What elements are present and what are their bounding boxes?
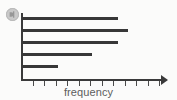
chart-screenshot: frequency [0, 0, 177, 100]
x-axis-line [21, 79, 163, 81]
x-axis-arrowhead-icon [161, 75, 168, 85]
bar [22, 53, 92, 56]
plot-area: frequency [0, 0, 177, 100]
y-axis-line [21, 13, 23, 81]
bar [22, 29, 128, 32]
bar [22, 17, 118, 20]
bar [22, 65, 58, 68]
x-axis-label: frequency [0, 86, 177, 98]
bar [22, 41, 118, 44]
